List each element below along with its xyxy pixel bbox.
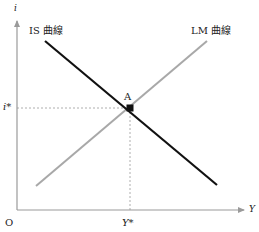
origin-label: O xyxy=(5,218,13,228)
y-star-label: Y* xyxy=(122,218,134,228)
i-star-label: i* xyxy=(3,102,11,112)
is-curve xyxy=(45,41,217,185)
is-curve-label: IS 曲線 xyxy=(29,26,63,36)
y-axis-label: i xyxy=(14,4,17,13)
lm-curve-label: LM 曲線 xyxy=(191,26,231,36)
equilibrium-label: A xyxy=(124,92,131,102)
equilibrium-point xyxy=(127,105,134,112)
x-axis-label: Y xyxy=(249,205,255,214)
lm-curve xyxy=(36,41,207,186)
